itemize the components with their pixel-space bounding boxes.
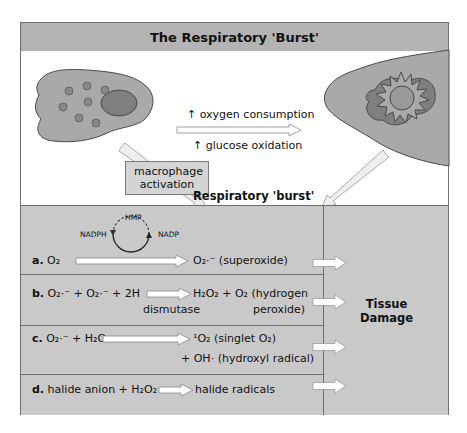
reaction-b-products-line2: peroxide) <box>253 303 305 316</box>
tissue-damage-line1: Tissue <box>360 297 413 311</box>
reaction-b-reactants: b. O₂·⁻ + O₂·⁻ + 2H <box>32 287 140 300</box>
resting-macrophage-icon <box>29 59 159 154</box>
diagram-title: The Respiratory 'Burst' <box>21 23 448 52</box>
nadp-label: NADP <box>158 230 179 239</box>
reaction-a-reactant-text: O₂ <box>47 254 60 267</box>
reaction-a-reactants: a. O₂ <box>32 254 60 267</box>
reaction-row-c: c. O₂·⁻ + H₂O₂ ¹O₂ (singlet O₂) + OH· (h… <box>21 326 323 374</box>
reaction-a-letter: a. <box>32 254 44 267</box>
activation-box-line2: activation <box>134 178 200 191</box>
oxygen-consumption-label: ↑ oxygen consumption <box>187 108 315 121</box>
reaction-row-b: b. O₂·⁻ + O₂·⁻ + 2H H₂O₂ + O₂ (hydrogen … <box>21 275 323 325</box>
reaction-b-letter: b. <box>32 287 44 300</box>
reaction-b-products: H₂O₂ + O₂ (hydrogen <box>193 287 308 300</box>
reactions-panel: HMP NADPH NADP a. O₂ O₂·⁻ (superoxide) b… <box>21 205 448 415</box>
reaction-a-arrow-icon <box>76 255 191 267</box>
activation-box-line1: macrophage <box>134 165 200 178</box>
reaction-c-reactant-text: O₂·⁻ + H₂O₂ <box>46 332 110 345</box>
reaction-b-reactant-text: O₂·⁻ + O₂·⁻ + 2H <box>48 287 140 300</box>
reaction-c-products: ¹O₂ (singlet O₂) <box>193 332 276 345</box>
reaction-d-reactants: d. halide anion + H₂O₂ <box>32 383 157 396</box>
reaction-d-products: halide radicals <box>195 383 275 396</box>
hmp-label: HMP <box>125 213 142 222</box>
nadph-label: NADPH <box>80 230 107 239</box>
reaction-b-enzyme: dismutase <box>143 303 200 316</box>
reaction-row-a: HMP NADPH NADP a. O₂ O₂·⁻ (superoxide) <box>21 206 323 274</box>
reaction-c-reactants: c. O₂·⁻ + H₂O₂ <box>32 332 111 345</box>
activation-arrow-icon <box>177 124 307 136</box>
burst-label: Respiratory 'burst' <box>193 189 314 203</box>
reaction-d-reactant-text: halide anion + H₂O₂ <box>48 383 158 396</box>
reaction-c-letter: c. <box>32 332 43 345</box>
reaction-d-arrow-icon <box>159 384 194 396</box>
activation-panel: ↑ oxygen consumption ↑ glucose oxidation… <box>21 51 448 205</box>
tissue-damage-line2: Damage <box>360 311 413 325</box>
reaction-c-products-line2: + OH· (hydroxyl radical) <box>181 352 314 365</box>
reaction-b-arrow-icon <box>147 288 192 300</box>
diagram-frame: The Respiratory 'Burst' ↑ oxygen consump… <box>20 22 449 415</box>
reaction-c-arrow-icon <box>103 333 193 345</box>
reaction-d-letter: d. <box>32 383 44 396</box>
reaction-a-products: O₂·⁻ (superoxide) <box>193 254 288 267</box>
reaction-row-d: d. halide anion + H₂O₂ halide radicals <box>21 375 323 415</box>
tissue-damage-label: Tissue Damage <box>324 206 449 415</box>
